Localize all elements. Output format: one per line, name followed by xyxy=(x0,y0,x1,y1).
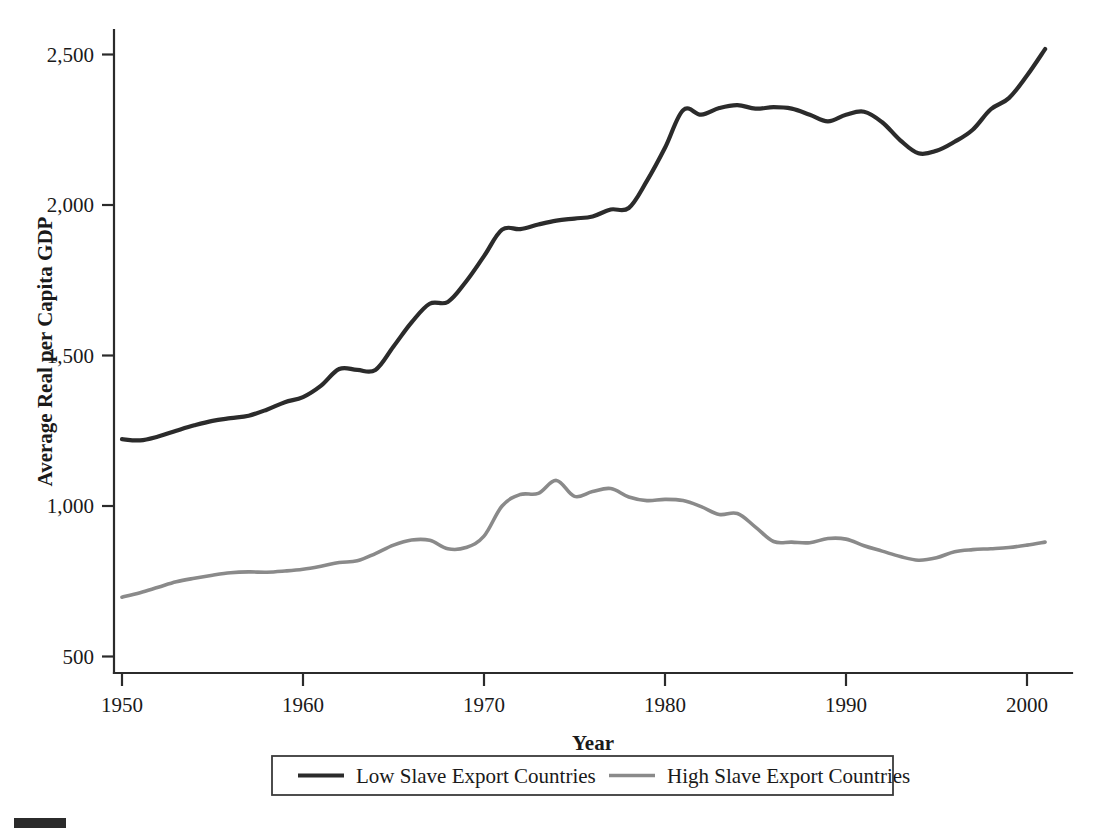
axis-title-group: Average Real per Capita GDPYear xyxy=(33,216,614,755)
y-axis-tick-label: 2,500 xyxy=(47,43,94,67)
tick-label-group: 5001,0001,5002,0002,50019501960197019801… xyxy=(47,43,1048,718)
x-axis-tick-label: 2000 xyxy=(1006,693,1048,717)
series-line-low-slave-export xyxy=(122,49,1045,440)
series-line-high-slave-export xyxy=(122,480,1045,597)
axes-group xyxy=(102,30,1072,686)
legend-label-low-slave-export: Low Slave Export Countries xyxy=(356,764,596,788)
x-axis-tick-label: 1990 xyxy=(825,693,867,717)
y-axis-title: Average Real per Capita GDP xyxy=(33,216,57,486)
y-axis-tick-label: 2,000 xyxy=(47,193,94,217)
x-axis-tick-label: 1980 xyxy=(644,693,686,717)
y-axis-tick-label: 1,000 xyxy=(47,494,94,518)
x-axis-tick-label: 1950 xyxy=(101,693,143,717)
y-axis-tick-label: 500 xyxy=(63,645,95,669)
x-axis-tick-label: 1970 xyxy=(463,693,505,717)
chart-legend: Low Slave Export CountriesHigh Slave Exp… xyxy=(14,756,910,828)
series-group xyxy=(122,49,1045,597)
gdp-line-chart: 5001,0001,5002,0002,50019501960197019801… xyxy=(0,0,1103,830)
x-axis-tick-label: 1960 xyxy=(282,693,324,717)
legend-label-high-slave-export: High Slave Export Countries xyxy=(667,764,910,788)
page-corner-mark xyxy=(14,818,66,828)
x-axis-title: Year xyxy=(572,731,614,755)
figure-container: 5001,0001,5002,0002,50019501960197019801… xyxy=(0,0,1103,830)
